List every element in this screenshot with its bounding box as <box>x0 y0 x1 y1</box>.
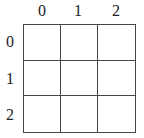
grid-cell-1-1 <box>61 61 98 97</box>
grid-cell-2-2 <box>98 96 135 132</box>
row-label-2: 2 <box>3 106 17 124</box>
row-label-0: 0 <box>3 33 17 51</box>
grid-3x3 <box>23 24 136 133</box>
grid-cell-0-2 <box>98 25 135 61</box>
column-label-1: 1 <box>68 2 88 20</box>
grid-cell-0-1 <box>61 25 98 61</box>
row-label-1: 1 <box>3 70 17 88</box>
grid-cell-0-0 <box>24 25 61 61</box>
grid-cell-1-0 <box>24 61 61 97</box>
grid-cell-2-1 <box>61 96 98 132</box>
grid-cell-2-0 <box>24 96 61 132</box>
grid-cell-1-2 <box>98 61 135 97</box>
column-label-0: 0 <box>32 2 52 20</box>
column-label-2: 2 <box>106 2 126 20</box>
